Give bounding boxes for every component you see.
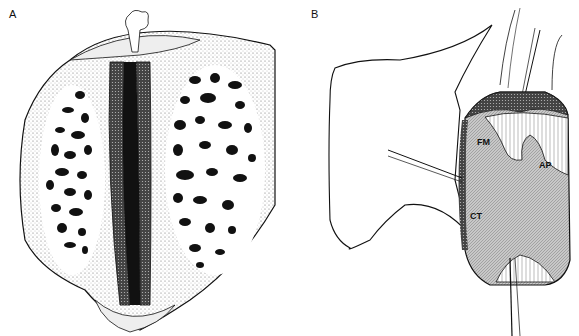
annotation-ct: CT xyxy=(470,211,482,221)
figure-illustration: FM AP CT xyxy=(0,0,579,336)
panel-b-drawing: FM AP CT xyxy=(329,8,570,336)
annotation-fm: FM xyxy=(477,137,490,147)
panel-a-drawing xyxy=(20,10,275,332)
annotation-ap: AP xyxy=(539,160,552,170)
